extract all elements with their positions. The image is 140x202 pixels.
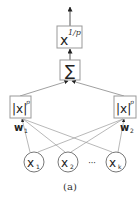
svg-text:w: w <box>14 122 23 133</box>
svg-text:x: x <box>61 156 68 170</box>
power-node-right-label: |x| <box>116 102 131 116</box>
svg-text:1: 1 <box>24 127 28 134</box>
p-norm-network-diagram: x 1/p ∑ |x| p |x| p w 1 w 2 <box>0 0 140 202</box>
svg-text:1: 1 <box>36 163 40 170</box>
edges-to-right <box>38 119 124 152</box>
power-node-left-label: |x| <box>12 102 27 116</box>
input-node-x2: x 2 <box>58 152 78 172</box>
left-to-sum-edge <box>20 81 68 96</box>
power-node-left: |x| p <box>10 96 31 118</box>
input-ellipsis: ··· <box>88 159 96 168</box>
power-node-right: |x| p <box>114 96 136 118</box>
weight-label-right: w 2 <box>120 122 134 134</box>
input-node-x1: x 1 <box>24 152 44 172</box>
sum-node: ∑ <box>60 60 80 80</box>
root-node-exponent: 1/p <box>68 28 81 37</box>
input-node-xk: x k <box>106 152 126 172</box>
svg-text:x: x <box>109 156 116 170</box>
power-node-left-exponent: p <box>26 98 30 106</box>
sum-symbol: ∑ <box>65 62 75 80</box>
svg-text:x: x <box>27 156 34 170</box>
svg-text:k: k <box>118 163 122 170</box>
svg-text:w: w <box>120 122 129 133</box>
figure-caption: (a) <box>63 181 77 192</box>
weight-label-left: w 1 <box>14 122 28 134</box>
svg-text:2: 2 <box>70 163 74 170</box>
edges-to-left <box>22 119 112 152</box>
right-to-sum-edge <box>72 81 124 96</box>
svg-text:2: 2 <box>130 127 134 134</box>
root-node: x 1/p <box>57 26 82 48</box>
power-node-right-exponent: p <box>130 98 134 106</box>
